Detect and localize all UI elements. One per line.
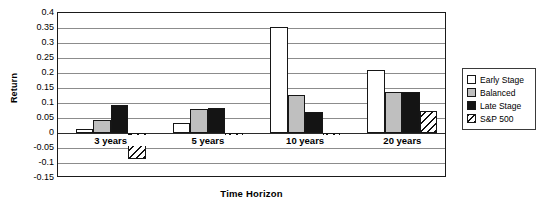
y-axis-tick-label: 0.4 [18, 8, 54, 17]
bar [76, 129, 94, 134]
bar [208, 108, 226, 133]
legend-swatch-icon [467, 75, 476, 84]
legend-item-label: Balanced [480, 88, 515, 98]
bar [111, 105, 129, 133]
x-axis-category-label: 5 years [167, 135, 249, 146]
legend-swatch-icon [467, 88, 476, 97]
x-axis-category-label: 10 years [264, 135, 346, 146]
legend-item-label: S&P 500 [480, 114, 513, 124]
bars-layer [58, 13, 445, 176]
bar [190, 109, 208, 133]
legend: Early StageBalancedLate StageS&P 500 [462, 68, 536, 130]
y-axis-tick-label: -0.15 [18, 173, 54, 182]
y-axis-tick-label: 0.1 [18, 98, 54, 107]
bar [288, 95, 306, 133]
y-axis-tick-label: 0.05 [18, 113, 54, 122]
y-axis-tick-label: 0.3 [18, 38, 54, 47]
x-axis-category-label: 3 years [70, 135, 152, 146]
legend-item-label: Late Stage [480, 101, 521, 111]
y-axis-tick-label: 0 [18, 128, 54, 137]
legend-swatch-icon [467, 114, 476, 123]
x-axis-category-label: 20 years [361, 135, 443, 146]
legend-item[interactable]: Early Stage [467, 73, 532, 86]
legend-swatch-icon [467, 101, 476, 110]
y-axis-tick-label: -0.05 [18, 143, 54, 152]
bar-chart: Return 0.40.350.30.250.20.150.10.050-0.0… [0, 0, 543, 208]
bar [385, 92, 403, 133]
y-axis-tick-label: 0.25 [18, 53, 54, 62]
bar [173, 123, 191, 133]
legend-item[interactable]: Late Stage [467, 99, 532, 112]
y-axis-tick-labels: 0.40.350.30.250.20.150.10.050-0.05-0.1-0… [18, 8, 54, 178]
bar [93, 120, 111, 134]
y-axis-tick-label: 0.35 [18, 23, 54, 32]
y-axis-tick-label: -0.1 [18, 158, 54, 167]
legend-item[interactable]: Balanced [467, 86, 532, 99]
bar [305, 112, 323, 133]
bar [420, 111, 438, 133]
y-axis-tick-label: 0.2 [18, 68, 54, 77]
legend-item-label: Early Stage [480, 75, 524, 85]
x-axis-title: Time Horizon [57, 188, 446, 199]
bar [270, 27, 288, 134]
legend-item[interactable]: S&P 500 [467, 112, 532, 125]
plot-area [57, 12, 446, 177]
y-axis-tick-label: 0.15 [18, 83, 54, 92]
bar [367, 70, 385, 133]
bar [402, 92, 420, 133]
